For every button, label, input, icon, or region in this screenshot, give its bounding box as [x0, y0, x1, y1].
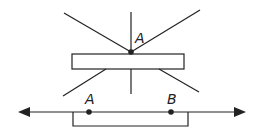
label-a-top: A [134, 30, 145, 46]
point-a-bottom [86, 109, 92, 115]
label-a-bottom: A [84, 91, 95, 107]
point-a-top [128, 49, 134, 55]
bottom-figure [24, 112, 240, 126]
line-lower-right [159, 69, 199, 92]
point-b-bottom [168, 109, 174, 115]
rectangle-bar [72, 54, 184, 69]
line-upper-left [64, 13, 131, 52]
geometry-diagram: A A B [0, 0, 259, 137]
label-b-bottom: B [167, 91, 177, 107]
arrow-left-icon [18, 107, 30, 117]
arrow-right-icon [234, 107, 246, 117]
